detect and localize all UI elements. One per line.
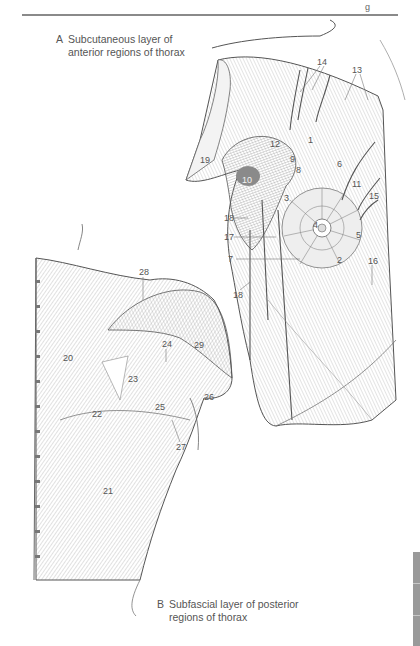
chapter-thumb-tab — [413, 552, 420, 646]
thumb-tab-divider — [413, 615, 420, 616]
thumb-tab-divider — [413, 583, 420, 584]
leader-lines — [0, 0, 420, 646]
